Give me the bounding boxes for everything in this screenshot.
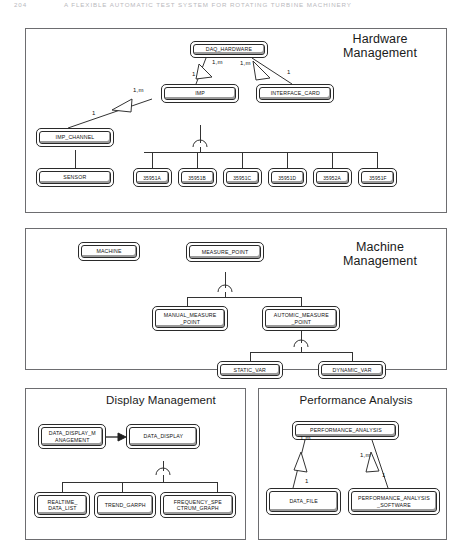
class-box-dynamic-var[interactable]: DYNAMIC_VAR	[318, 361, 386, 379]
panel-display-title: Display Management	[85, 393, 237, 407]
class-label: REALTIME_ DATA_LIST	[46, 499, 78, 512]
class-label: PERFORMANCE_ANALYSIS _SOFTWARE	[357, 495, 431, 508]
connector-bus-freq	[217, 482, 218, 492]
class-label: 35951D	[278, 175, 298, 181]
class-label: DYNAMIC_VAR	[332, 367, 373, 373]
multiplicity-daq-card-one: 1	[287, 69, 291, 75]
connector-bus-35951d	[287, 152, 288, 168]
connector-bus-35952a	[332, 152, 333, 168]
class-box-imp-channel[interactable]: IMP_CHANNEL	[36, 128, 114, 147]
class-box-machine[interactable]: MACHINE	[78, 242, 140, 261]
panel-machine-title: Machine Management	[320, 240, 440, 268]
class-label: AUTOMIC_MEASURE _POINT	[273, 312, 330, 325]
connector-arc-to-bus	[200, 147, 201, 153]
page-number: 204	[14, 1, 27, 8]
class-box-performance-analysis-software[interactable]: PERFORMANCE_ANALYSIS _SOFTWARE	[348, 488, 440, 515]
class-label: PERFORMANCE_ANALYSIS	[309, 427, 383, 433]
class-label: MEASURE_POINT	[201, 249, 250, 255]
class-box-data-file[interactable]: DATA_FILE	[266, 488, 341, 515]
connector-impchannel-sensor	[75, 150, 76, 168]
class-label: 35951F	[368, 175, 387, 181]
multiplicity-daq-imp-one: 1	[192, 71, 196, 77]
connector-bus-dynamicvar	[352, 352, 353, 361]
class-box-sensor[interactable]: SENSOR	[36, 168, 114, 187]
class-box-imp[interactable]: IMP	[161, 84, 239, 103]
connector-bus-realtime	[62, 482, 63, 492]
multiplicity-perf-datafile-many: 1,m	[300, 435, 311, 441]
class-label: 35951C	[233, 175, 253, 181]
connector-bus-manual	[187, 297, 188, 306]
panel-hardware-title: Hardware Management	[320, 32, 440, 60]
class-label: DAQ_HARDWARE	[205, 46, 253, 52]
connector-bus-staticvar	[250, 352, 251, 361]
class-box-35951d[interactable]: 35951D	[268, 168, 307, 187]
multiplicity-daq-imp-many: 1,m	[212, 59, 223, 65]
class-label: IMP_CHANNEL	[55, 134, 96, 140]
class-box-static-var[interactable]: STATIC_VAR	[217, 361, 283, 379]
class-label: INTERFACE_CARD	[269, 90, 320, 96]
connector-bus-trend	[122, 482, 123, 492]
class-box-data-display[interactable]: DATA_DISPLAY	[126, 424, 200, 449]
class-box-35951b[interactable]: 35951B	[178, 168, 217, 187]
connector-automic-to-arc	[301, 330, 302, 343]
connector-bus-35951c	[242, 152, 243, 168]
class-box-35952a[interactable]: 35952A	[313, 168, 352, 187]
multiplicity-perf-software-one: 1	[382, 472, 386, 478]
class-box-trend-graph[interactable]: TREND_GARPH	[94, 492, 156, 518]
connector-automic-bus	[250, 352, 352, 353]
class-label: 35951B	[188, 175, 208, 181]
multiplicity-perf-datafile-one: 1	[305, 478, 309, 484]
class-box-35951c[interactable]: 35951C	[223, 168, 262, 187]
connector-datadisplay-bus	[62, 482, 217, 483]
connector-bus-35951a	[152, 152, 153, 168]
running-title: A FLEXIBLE AUTOMATIC TEST SYSTEM FOR ROT…	[64, 1, 352, 8]
class-label: MACHINE	[95, 248, 122, 254]
connector-imp-to-arc	[200, 125, 201, 143]
connector-bus-35951b	[197, 152, 198, 168]
multiplicity-daq-card-many: 1,m	[240, 60, 251, 66]
class-box-manual-measure-point[interactable]: MANUAL_MEASURE _POINT	[152, 306, 228, 331]
connector-bus-automic	[301, 297, 302, 306]
class-box-frequency-spectrum-graph[interactable]: FREQUENCY_SPE CTRUM_GRAPH	[160, 492, 236, 518]
class-label: MANUAL_MEASURE _POINT	[163, 312, 218, 325]
class-label: 35952A	[323, 175, 343, 181]
class-label: STATIC_VAR	[233, 367, 267, 373]
multiplicity-imp-channel-one: 1	[92, 110, 96, 116]
class-box-35951a[interactable]: 35951A	[133, 168, 172, 187]
panel-performance-analysis	[258, 388, 447, 540]
class-box-measure-point[interactable]: MEASURE_POINT	[186, 242, 264, 262]
class-label: FREQUENCY_SPE CTRUM_GRAPH	[173, 499, 223, 512]
connector-measurepoint-to-arc	[225, 272, 226, 288]
class-box-interface-card[interactable]: INTERFACE_CARD	[256, 84, 334, 103]
class-box-daq-hardware[interactable]: DAQ_HARDWARE	[190, 41, 268, 58]
multiplicity-imp-channel-many: 1,m	[133, 87, 144, 93]
class-label: TREND_GARPH	[103, 502, 146, 508]
panel-performance-title: Performance Analysis	[280, 393, 432, 407]
class-label: DATA_DISPLAY	[142, 433, 183, 439]
class-label: IMP	[194, 90, 206, 96]
class-label: 35951A	[143, 175, 163, 181]
class-box-automic-measure-point[interactable]: AUTOMIC_MEASURE _POINT	[262, 306, 340, 331]
class-label: DATA_FILE	[288, 498, 318, 504]
connector-datadisplay-to-arc	[163, 461, 164, 471]
class-box-35951f[interactable]: 35951F	[358, 168, 397, 187]
page-running-header: 204 A FLEXIBLE AUTOMATIC TEST SYSTEM FOR…	[0, 0, 470, 12]
class-box-data-display-management[interactable]: DATA_DISPLAY_M ANAGEMENT	[38, 424, 106, 449]
connector-bus-35951f	[377, 152, 378, 168]
multiplicity-perf-software-many: 1,m	[360, 452, 371, 458]
connector-measurepoint-bus	[187, 297, 302, 298]
connector-imp-children-bus	[144, 152, 377, 153]
class-box-realtime-data-list[interactable]: REALTIME_ DATA_LIST	[34, 492, 90, 518]
class-label: SENSOR	[63, 174, 88, 180]
class-label: DATA_DISPLAY_M ANAGEMENT	[47, 430, 96, 443]
